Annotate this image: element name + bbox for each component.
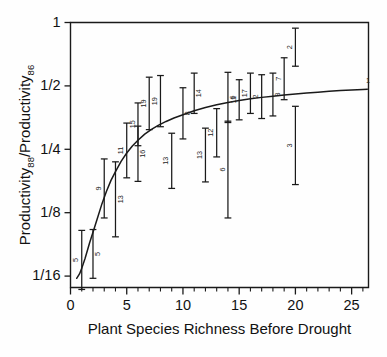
sample-size-label: 11 — [116, 147, 125, 154]
sample-size-label: 2 — [285, 45, 294, 49]
data-point: 14 — [191, 73, 204, 113]
data-point: 8 — [180, 88, 193, 139]
y-axis-tick-label: 1/2 — [40, 77, 60, 93]
sample-size-label: 16 — [138, 150, 147, 158]
sample-size-label: 11 — [229, 96, 238, 103]
x-axis-tick-label: 15 — [231, 297, 247, 313]
y-axis-tick-label: 1/16 — [32, 267, 60, 283]
sample-size-label: 2 — [251, 95, 260, 99]
sample-size-label: 19 — [150, 97, 159, 105]
data-point: 13 — [161, 133, 175, 188]
x-axis-tick-label: 5 — [123, 297, 131, 313]
x-axis-title: Plant Species Richness Before Drought — [88, 320, 352, 337]
sample-size-label: 13 — [195, 151, 204, 159]
sample-size-label: 1 — [366, 76, 370, 85]
data-point: 6 — [218, 121, 232, 218]
x-axis-tick-label: 0 — [66, 297, 74, 313]
sample-size-label: 5 — [71, 258, 80, 262]
x-axis-tick-label: 25 — [344, 297, 360, 313]
y-axis-title: Productivity88/Productivity86 — [16, 65, 36, 245]
sample-size-label: 19 — [139, 99, 148, 107]
data-point: 19 — [150, 76, 164, 127]
sample-size-label: 9 — [94, 186, 103, 190]
x-axis-tick-label: 20 — [287, 297, 303, 313]
fitted-curve — [77, 89, 368, 278]
sample-size-label: 8 — [183, 111, 192, 115]
sample-size-label: 3 — [285, 143, 294, 147]
sample-size-label: 17 — [240, 89, 249, 97]
data-point: 5 — [71, 230, 85, 289]
sample-size-label: 7 — [274, 77, 283, 81]
sample-size-label: 3 — [273, 93, 282, 97]
data-point: 3 — [285, 106, 299, 184]
sample-size-label: 6 — [218, 168, 227, 172]
sample-size-label: 14 — [194, 89, 203, 97]
y-axis-tick-label: 1/8 — [40, 204, 60, 220]
sample-size-label: 12 — [206, 129, 215, 137]
productivity-richness-scatter-plot: 11/21/41/81/1605101520255591311161519191… — [0, 0, 387, 357]
sample-size-label: 13 — [116, 195, 125, 203]
data-point: 12 — [206, 109, 220, 157]
sample-size-label: 5 — [93, 252, 102, 256]
data-point: 2 — [285, 28, 299, 66]
data-point: 1 — [366, 76, 370, 85]
figure-panel: 11/21/41/81/1605101520255591311161519191… — [0, 0, 387, 357]
y-axis-tick-label: 1 — [52, 14, 60, 30]
y-axis-tick-label: 1/4 — [40, 141, 60, 157]
x-axis-tick-label: 10 — [175, 297, 191, 313]
sample-size-label: 13 — [161, 157, 170, 165]
plot-frame — [71, 23, 369, 288]
sample-size-label: 15 — [128, 120, 137, 128]
